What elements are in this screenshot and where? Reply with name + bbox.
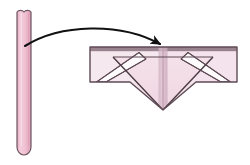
vertical-paper-strip [17, 10, 31, 155]
paper-folding-diagram [0, 0, 250, 165]
diagram-canvas [0, 0, 250, 165]
